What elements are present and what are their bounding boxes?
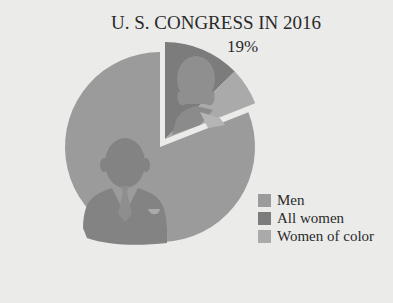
legend: Men All women Women of color — [258, 191, 374, 245]
legend-item-all-women: All women — [258, 209, 374, 227]
pie-chart — [0, 0, 393, 303]
legend-swatch-women-of-color — [258, 230, 271, 243]
legend-swatch-men — [258, 194, 271, 207]
legend-label: Women of color — [277, 228, 374, 245]
legend-label: All women — [277, 210, 344, 227]
legend-item-women-of-color: Women of color — [258, 227, 374, 245]
legend-label: Men — [277, 192, 305, 209]
legend-swatch-all-women — [258, 212, 271, 225]
legend-item-men: Men — [258, 191, 374, 209]
percent-label: 19% — [227, 37, 258, 57]
